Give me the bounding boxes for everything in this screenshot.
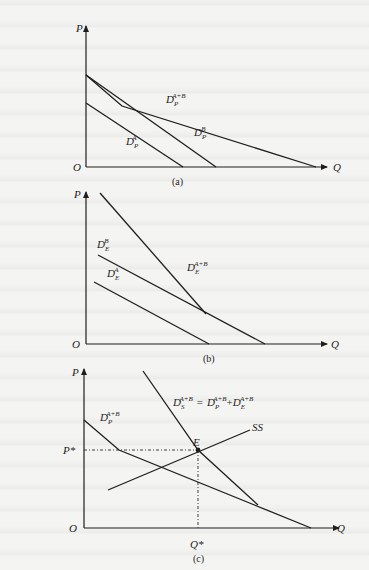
equation-dsab: DSA+B=DPA+B+DEA+B: [172, 395, 254, 411]
label-dpb: DPB: [193, 125, 207, 141]
label-dea: DEA: [106, 266, 120, 282]
origin-label: O: [73, 161, 81, 173]
q-axis-label: Q: [333, 161, 341, 173]
label-p-star: P*: [62, 444, 76, 456]
q-axis-label: Q: [337, 522, 345, 534]
curve-dpab: [86, 75, 316, 167]
label-dpab: DPA+B: [165, 92, 186, 108]
panel-c: P Q O E P* Q* DPA+B SS DSA+B=DPA+B+DEA+B…: [62, 366, 345, 565]
origin-label: O: [69, 522, 77, 534]
p-axis-label: P: [73, 188, 81, 200]
caption-b: (b): [203, 353, 215, 365]
panel-a: P Q O DPA DPB DPA+B (a): [73, 22, 341, 188]
caption-a: (a): [172, 176, 183, 188]
p-axis-label: P: [75, 22, 83, 34]
label-e: E: [192, 436, 200, 448]
q-axis-label: Q: [331, 338, 339, 350]
label-q-star: Q*: [190, 538, 204, 550]
curve-deab: [100, 193, 206, 314]
label-deb: DEB: [96, 237, 110, 253]
label-dpab: DPA+B: [99, 410, 120, 426]
textbook-page: P Q O DPA DPB DPA+B (a) P Q O DEB DEA: [0, 0, 369, 570]
curve-dea: [94, 282, 209, 344]
caption-c: (c): [193, 553, 204, 565]
origin-label: O: [72, 338, 80, 350]
curve-deb: [98, 255, 265, 344]
curve-dpb: [86, 75, 216, 167]
p-axis-label: P: [71, 366, 79, 378]
curve-dsab: [143, 371, 258, 505]
label-deab: DEA+B: [186, 260, 208, 276]
panel-b: P Q O DEB DEA DEA+B (b): [72, 188, 339, 365]
equilibrium-point: [196, 448, 201, 453]
figure-canvas: P Q O DPA DPB DPA+B (a) P Q O DEB DEA: [0, 0, 369, 570]
curve-ss: [108, 430, 250, 490]
label-ss: SS: [252, 421, 264, 433]
